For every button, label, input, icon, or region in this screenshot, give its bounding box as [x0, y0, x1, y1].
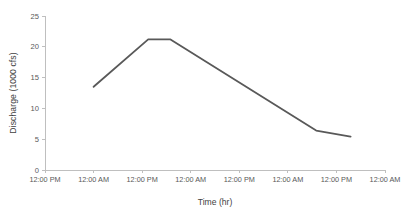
x-tick-label: 12:00 AM: [78, 175, 109, 184]
x-tick-label: 12:00 PM: [321, 175, 352, 184]
x-tick-label: 12:00 AM: [370, 175, 401, 184]
x-tick-label: 12:00 AM: [175, 175, 206, 184]
y-tick-label: 0: [35, 166, 39, 175]
plot-svg: 051015202512:00 PM12:00 AM12:00 PM12:00 …: [0, 0, 410, 215]
y-tick-label: 10: [31, 104, 39, 113]
y-tick-label: 20: [31, 42, 39, 51]
y-tick-label: 25: [31, 12, 39, 21]
x-tick-label: 12:00 PM: [224, 175, 255, 184]
x-tick-label: 12:00 AM: [272, 175, 303, 184]
y-tick-label: 5: [35, 135, 39, 144]
x-axis-title: Time (hr): [198, 197, 233, 207]
x-tick-label: 12:00 PM: [127, 175, 158, 184]
discharge-line: [94, 39, 351, 136]
axis-lines: [45, 16, 385, 170]
discharge-hydrograph-chart: 051015202512:00 PM12:00 AM12:00 PM12:00 …: [0, 0, 410, 215]
x-tick-label: 12:00 PM: [29, 175, 60, 184]
y-axis-title: Discharge (1000 cfs): [8, 52, 18, 133]
y-tick-label: 15: [31, 73, 39, 82]
